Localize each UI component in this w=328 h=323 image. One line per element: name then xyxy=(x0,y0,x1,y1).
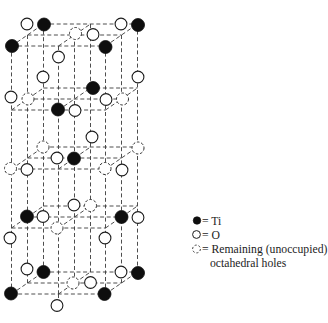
filled-circle-icon xyxy=(193,217,201,225)
octahedral-hole xyxy=(67,277,79,289)
octahedral-hole xyxy=(85,200,97,212)
legend-item-oxygen: = O xyxy=(193,229,220,242)
oxygen-atom xyxy=(21,18,33,30)
titanium-atom xyxy=(68,152,81,165)
oxygen-atom xyxy=(132,71,144,83)
legend-label-oxygen: = O xyxy=(202,229,220,242)
octahedral-hole xyxy=(22,93,34,105)
titanium-atom xyxy=(132,19,145,32)
oxygen-atom xyxy=(68,199,80,211)
oxygen-atom xyxy=(116,164,128,176)
oxygen-atom xyxy=(87,29,99,41)
legend: = Ti = O = Remaining (unoccupied) octahe… xyxy=(193,215,328,270)
oxygen-atom xyxy=(37,71,49,83)
titanium-atom xyxy=(5,287,18,300)
legend-label-hole-line2: octahedral holes xyxy=(210,257,287,270)
oxygen-atom xyxy=(99,232,111,244)
oxygen-atom xyxy=(86,131,98,143)
titanium-atom xyxy=(37,266,50,279)
legend-item-ti: = Ti xyxy=(193,215,222,228)
oxygen-atom xyxy=(115,266,127,278)
titanium-atom xyxy=(98,288,111,301)
legend-label-ti: = Ti xyxy=(202,215,222,228)
oxygen-atom xyxy=(21,263,33,275)
octahedral-hole xyxy=(70,28,82,40)
oxygen-atom xyxy=(51,152,63,164)
oxygen-atom xyxy=(132,212,144,224)
oxygen-atom xyxy=(51,300,63,312)
oxygen-atom xyxy=(100,94,112,106)
oxygen-atom xyxy=(53,51,65,63)
octahedral-hole xyxy=(51,222,63,234)
titanium-atom xyxy=(87,82,100,95)
titanium-atom xyxy=(99,41,112,54)
rutile-tio2-structure-diagram: = Ti = O = Remaining (unoccupied) octahe… xyxy=(0,0,328,323)
oxygen-atom xyxy=(21,164,33,176)
titanium-atom xyxy=(21,210,34,223)
legend-label-hole: = Remaining (unoccupied) xyxy=(202,243,327,256)
dashed-circle-icon xyxy=(193,245,201,253)
octahedral-hole xyxy=(132,142,144,154)
oxygen-atom xyxy=(85,277,97,289)
oxygen-atom xyxy=(115,18,127,30)
legend-item-hole: = Remaining (unoccupied) octahedral hole… xyxy=(193,243,328,269)
oxygen-atom xyxy=(5,91,17,103)
oxygen-atom xyxy=(69,105,81,117)
octahedral-hole xyxy=(37,141,49,153)
titanium-atom xyxy=(6,40,19,53)
oxygen-atom xyxy=(37,211,49,223)
octahedral-hole xyxy=(99,163,111,175)
octahedral-hole xyxy=(117,93,129,105)
oxygen-atom xyxy=(4,232,16,244)
titanium-atom xyxy=(132,267,145,280)
octahedral-hole xyxy=(5,163,17,175)
titanium-atom xyxy=(38,18,51,31)
titanium-atom xyxy=(52,103,65,116)
titanium-atom xyxy=(115,211,128,224)
open-circle-icon xyxy=(193,231,201,239)
